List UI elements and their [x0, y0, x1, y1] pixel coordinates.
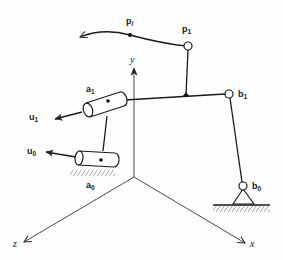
- coupler-curve: pi: [80, 16, 186, 46]
- coordinate-axes: y z x: [12, 54, 255, 249]
- joint-p1: [184, 42, 192, 50]
- point-p-i-dot: [128, 33, 132, 37]
- link-b1-b0: [230, 98, 242, 182]
- ground-pivot-b0: b0: [213, 181, 270, 212]
- cylinder-a1-center-dot: [106, 99, 110, 103]
- joint-b0: [239, 182, 247, 190]
- cylinder-joint-a1: a1 u1: [29, 84, 127, 151]
- joint-b1: [225, 90, 233, 98]
- z-axis-label: z: [12, 238, 17, 249]
- x-axis-label: x: [249, 238, 255, 249]
- label-u1: u1: [29, 112, 39, 123]
- axis-u1-arrow: [55, 112, 82, 119]
- diagram-svg: y z x pi a1 u1: [0, 0, 283, 260]
- label-b0: b0: [252, 181, 262, 192]
- cylinder-joint-a0: a0 u0: [27, 146, 119, 191]
- link-a1-a0: [103, 116, 107, 151]
- y-axis-label: y: [129, 54, 135, 65]
- support-triangle: [233, 189, 254, 204]
- z-axis: [24, 177, 134, 242]
- label-p1: p1: [182, 24, 192, 35]
- linkage-diagram: y z x pi a1 u1: [0, 0, 283, 260]
- axis-u0-arrow: [46, 152, 76, 157]
- cylinder-a0-body: [78, 151, 119, 167]
- label-p-i: pi: [126, 16, 134, 27]
- label-u0: u0: [27, 146, 37, 157]
- label-a1: a1: [86, 84, 95, 95]
- trajectory-curve: [80, 32, 186, 46]
- ground-hatch-a0: [70, 170, 115, 176]
- link-p1-junction: [186, 50, 188, 95]
- label-a0: a0: [86, 180, 95, 191]
- cylinder-a0-center-dot: [99, 158, 103, 162]
- ground-hatch-b0: [213, 206, 270, 212]
- label-b1: b1: [238, 89, 248, 100]
